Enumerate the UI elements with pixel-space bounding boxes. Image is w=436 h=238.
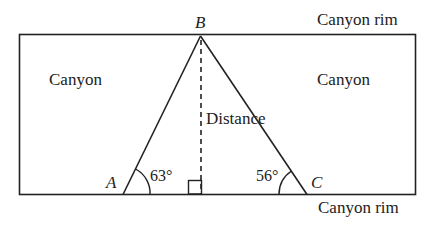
- canyon-left-label: Canyon: [49, 70, 102, 89]
- vertex-b-label: B: [195, 13, 206, 32]
- vertex-a-label: A: [105, 173, 117, 192]
- angle-c-value: 56°: [256, 167, 278, 184]
- rim-top-label: Canyon rim: [317, 10, 398, 29]
- angle-arc-a: [136, 169, 151, 195]
- angle-a-value: 63°: [150, 167, 172, 184]
- angle-arc-c: [279, 171, 292, 195]
- rim-bottom-label: Canyon rim: [318, 198, 399, 217]
- right-angle-marker: [189, 181, 202, 195]
- vertex-c-label: C: [311, 173, 323, 192]
- canyon-right-label: Canyon: [317, 70, 370, 89]
- distance-label: Distance: [206, 109, 265, 128]
- canyon-diagram: Canyon rim Canyon rim Canyon Canyon Dist…: [0, 0, 436, 238]
